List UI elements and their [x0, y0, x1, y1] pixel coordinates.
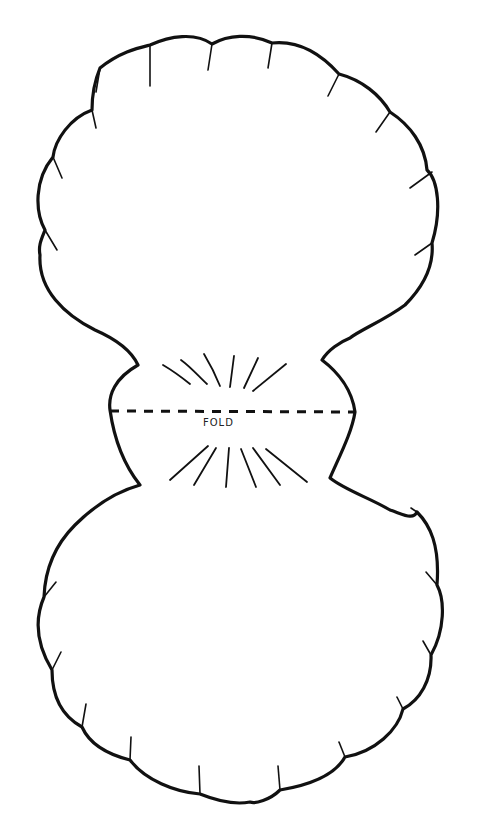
top-shell-ribs	[45, 43, 432, 255]
fold-line	[110, 411, 355, 412]
shell-drawing	[0, 0, 483, 829]
fold-label: FOLD	[203, 417, 253, 428]
lower-rays	[170, 446, 307, 487]
upper-rays	[163, 354, 286, 391]
